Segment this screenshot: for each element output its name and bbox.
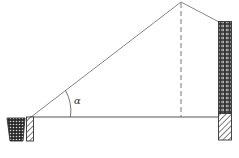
right-building-upper bbox=[219, 22, 232, 114]
right-building-base bbox=[219, 114, 232, 141]
angle-arc bbox=[66, 91, 71, 118]
sight-line bbox=[31, 2, 181, 117]
angle-label: α bbox=[74, 95, 81, 106]
diagram-canvas: α bbox=[0, 0, 239, 158]
descending-line bbox=[181, 2, 219, 22]
left-post bbox=[27, 117, 34, 141]
left-planter bbox=[7, 118, 25, 141]
